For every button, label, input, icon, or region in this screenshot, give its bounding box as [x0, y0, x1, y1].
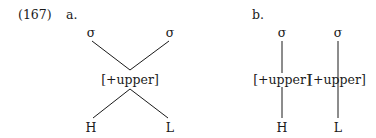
assoc-line [93, 89, 130, 118]
assoc-line [130, 89, 168, 118]
association-lines [0, 0, 376, 138]
assoc-line [130, 41, 169, 70]
assoc-line [92, 41, 130, 70]
